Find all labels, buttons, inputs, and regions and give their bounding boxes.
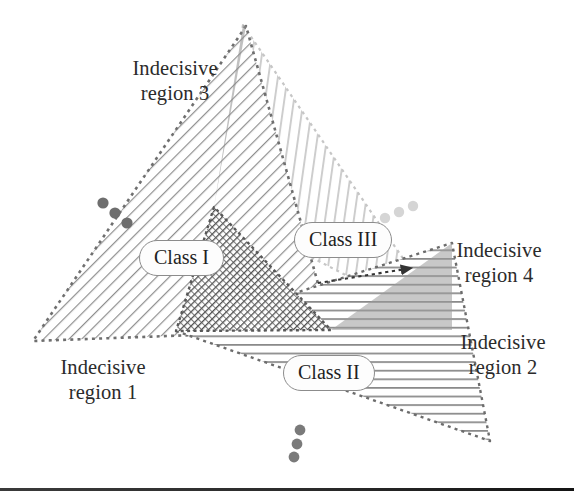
label-indecisive-region-2: Indecisive region 2	[432, 330, 574, 380]
bottom-divider	[0, 488, 574, 491]
classification-region-diagram: Indecisive region 3 Indecisive region 1 …	[0, 0, 574, 495]
label-indecisive-region-3: Indecisive region 3	[110, 56, 240, 106]
label-class-3: Class III	[294, 222, 392, 258]
label-indecisive-region-1: Indecisive region 1	[28, 355, 178, 405]
right-ellipsis	[380, 201, 418, 223]
bottom-ellipsis	[289, 425, 306, 463]
label-indecisive-region-4: Indecisive region 4	[424, 238, 574, 288]
label-class-2: Class II	[283, 355, 375, 391]
label-class-1: Class I	[139, 240, 224, 276]
